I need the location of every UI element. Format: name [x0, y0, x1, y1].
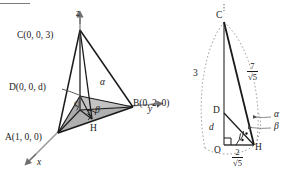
right-point-label-D: D: [213, 106, 220, 116]
right-point-label-C: C: [216, 11, 222, 21]
point-label-A: A(1, 0, 0): [5, 133, 42, 143]
angle-dot-beta: [241, 139, 243, 141]
angle-dot-alpha: [245, 132, 247, 134]
z-axis-label: z: [76, 9, 80, 19]
leader-beta-right: [250, 128, 271, 129]
right-point-label-H: H: [255, 143, 262, 153]
right-angle-marker-O-right: [224, 138, 231, 145]
leader-alpha-right: [255, 117, 271, 118]
length-label-CH-denominator: √5: [247, 73, 258, 82]
angle-label-beta-right: β: [274, 122, 279, 132]
angle-label-alpha-left: α: [100, 78, 105, 88]
angle-label-alpha-right: α: [274, 110, 279, 120]
y-axis-label: y: [148, 105, 152, 115]
length-label-OH-numerator: 2: [232, 148, 243, 157]
figure-canvas: z C(0, 0, 3) D(0, 0, d) A(1, 0, 0) B(0, …: [0, 0, 301, 178]
angle-arc-beta-right: [236, 134, 241, 146]
point-label-D: D(0, 0, d): [9, 83, 46, 93]
point-label-H: H: [90, 124, 97, 134]
edge-CB: [80, 30, 133, 107]
length-label-CH-numerator: 7: [247, 62, 258, 71]
x-axis-label: x: [37, 158, 41, 168]
length-label-DO: d: [209, 123, 214, 133]
length-label-CO: 3: [193, 69, 198, 79]
x-axis-arrow: [27, 154, 36, 163]
point-label-O: O: [74, 101, 80, 109]
length-label-CH: 7 √5: [247, 62, 258, 82]
point-label-C: C(0, 0, 3): [17, 31, 53, 41]
angle-label-beta-left: β: [95, 106, 100, 116]
length-label-OH-denominator: √5: [232, 159, 243, 168]
length-label-OH: 2 √5: [232, 148, 243, 168]
right-point-label-O: O: [214, 146, 221, 156]
leader-D: [62, 89, 79, 95]
